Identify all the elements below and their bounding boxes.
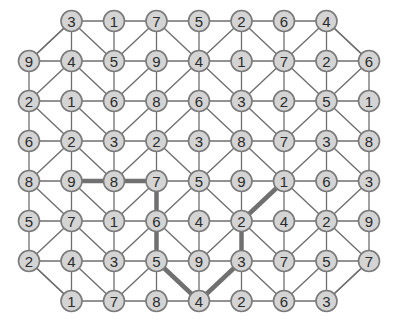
grid-node[interactable]: 2 xyxy=(19,251,40,272)
grid-node[interactable]: 4 xyxy=(61,51,82,72)
node-value: 1 xyxy=(110,213,118,230)
grid-node[interactable]: 6 xyxy=(274,11,295,32)
node-value: 4 xyxy=(67,253,75,270)
grid-node[interactable]: 2 xyxy=(274,91,295,112)
node-value: 5 xyxy=(322,253,330,270)
node-value: 9 xyxy=(25,53,33,70)
grid-node[interactable]: 3 xyxy=(359,171,380,192)
grid-node[interactable]: 2 xyxy=(61,131,82,152)
grid-node[interactable]: 9 xyxy=(189,251,210,272)
grid-node[interactable]: 8 xyxy=(104,171,125,192)
grid-node[interactable]: 5 xyxy=(316,91,337,112)
grid-node[interactable]: 4 xyxy=(189,51,210,72)
node-value: 5 xyxy=(195,13,203,30)
grid-node[interactable]: 7 xyxy=(274,251,295,272)
node-value: 5 xyxy=(195,173,203,190)
grid-node[interactable]: 3 xyxy=(61,11,82,32)
grid-node[interactable]: 7 xyxy=(61,211,82,232)
node-value: 9 xyxy=(237,173,245,190)
grid-node[interactable]: 6 xyxy=(359,51,380,72)
grid-node[interactable]: 3 xyxy=(231,251,252,272)
node-value: 4 xyxy=(195,213,203,230)
grid-node[interactable]: 4 xyxy=(189,211,210,232)
grid-node[interactable]: 9 xyxy=(359,211,380,232)
grid-node[interactable]: 1 xyxy=(104,211,125,232)
node-value: 4 xyxy=(195,53,203,70)
grid-node[interactable]: 5 xyxy=(189,171,210,192)
grid-node[interactable]: 2 xyxy=(231,11,252,32)
grid-node[interactable]: 6 xyxy=(189,91,210,112)
node-value: 2 xyxy=(322,213,330,230)
grid-node[interactable]: 8 xyxy=(146,91,167,112)
grid-node[interactable]: 3 xyxy=(104,251,125,272)
node-value: 6 xyxy=(280,293,288,310)
node-value: 8 xyxy=(25,173,33,190)
grid-node[interactable]: 4 xyxy=(316,11,337,32)
grid-node[interactable]: 3 xyxy=(316,131,337,152)
grid-node[interactable]: 5 xyxy=(19,211,40,232)
grid-node[interactable]: 8 xyxy=(19,171,40,192)
grid-node[interactable]: 8 xyxy=(146,291,167,312)
grid-node[interactable]: 1 xyxy=(231,51,252,72)
grid-node[interactable]: 3 xyxy=(189,131,210,152)
node-value: 2 xyxy=(322,53,330,70)
grid-node[interactable]: 1 xyxy=(61,291,82,312)
grid-node[interactable]: 4 xyxy=(61,251,82,272)
grid-node[interactable]: 7 xyxy=(146,171,167,192)
grid-node[interactable]: 1 xyxy=(274,171,295,192)
grid-node[interactable]: 2 xyxy=(231,291,252,312)
node-value: 2 xyxy=(237,13,245,30)
node-value: 3 xyxy=(110,253,118,270)
grid-node[interactable]: 7 xyxy=(274,131,295,152)
node-value: 7 xyxy=(280,53,288,70)
grid-node[interactable]: 5 xyxy=(189,11,210,32)
grid-node[interactable]: 8 xyxy=(231,131,252,152)
grid-node[interactable]: 8 xyxy=(359,131,380,152)
grid-node[interactable]: 1 xyxy=(359,91,380,112)
grid-node[interactable]: 6 xyxy=(19,131,40,152)
grid-node[interactable]: 6 xyxy=(146,211,167,232)
grid-node[interactable]: 3 xyxy=(104,131,125,152)
node-value: 9 xyxy=(195,253,203,270)
grid-node[interactable]: 4 xyxy=(274,211,295,232)
grid-node[interactable]: 7 xyxy=(104,291,125,312)
node-value: 6 xyxy=(280,13,288,30)
grid-node[interactable]: 6 xyxy=(274,291,295,312)
node-value: 3 xyxy=(322,293,330,310)
grid-node[interactable]: 2 xyxy=(146,131,167,152)
grid-node[interactable]: 7 xyxy=(359,251,380,272)
grid-node[interactable]: 9 xyxy=(146,51,167,72)
node-value: 7 xyxy=(67,213,75,230)
grid-node[interactable]: 9 xyxy=(19,51,40,72)
node-value: 2 xyxy=(25,253,33,270)
grid-node[interactable]: 2 xyxy=(19,91,40,112)
grid-node[interactable]: 5 xyxy=(316,251,337,272)
grid-node[interactable]: 4 xyxy=(189,291,210,312)
grid-node[interactable]: 9 xyxy=(231,171,252,192)
grid-node[interactable]: 7 xyxy=(146,11,167,32)
node-value: 6 xyxy=(152,213,160,230)
grid-node[interactable]: 3 xyxy=(316,291,337,312)
grid-node[interactable]: 1 xyxy=(104,11,125,32)
grid-node[interactable]: 3 xyxy=(231,91,252,112)
grid-node[interactable]: 2 xyxy=(231,211,252,232)
node-value: 6 xyxy=(195,93,203,110)
node-value: 8 xyxy=(152,93,160,110)
node-value: 7 xyxy=(365,253,373,270)
node-value: 2 xyxy=(67,133,75,150)
grid-node[interactable]: 6 xyxy=(104,91,125,112)
node-value: 4 xyxy=(67,53,75,70)
grid-node[interactable]: 7 xyxy=(274,51,295,72)
number-path-puzzle-board: 3175264945941726216863251623238738898759… xyxy=(0,0,394,326)
grid-node[interactable]: 6 xyxy=(316,171,337,192)
grid-node[interactable]: 1 xyxy=(61,91,82,112)
grid-node[interactable]: 5 xyxy=(146,251,167,272)
node-value: 6 xyxy=(322,173,330,190)
grid-node[interactable]: 9 xyxy=(61,171,82,192)
node-value: 9 xyxy=(152,53,160,70)
grid-node[interactable]: 5 xyxy=(104,51,125,72)
grid-node[interactable]: 2 xyxy=(316,211,337,232)
node-value: 3 xyxy=(237,93,245,110)
node-value: 7 xyxy=(152,173,160,190)
grid-node[interactable]: 2 xyxy=(316,51,337,72)
